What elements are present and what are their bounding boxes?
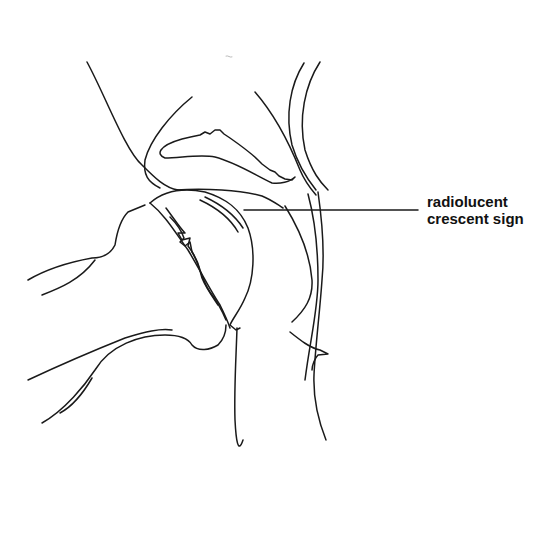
neck-lower-line — [42, 260, 95, 295]
acetabular-roof-edge — [176, 189, 283, 208]
ischium-line-1 — [285, 206, 312, 322]
pelvic-curve-2 — [302, 62, 328, 190]
hip-joint-diagram: radiolucent crescent sign — [0, 0, 549, 536]
small-mark — [226, 56, 232, 57]
femoral-shaft-line — [235, 328, 243, 446]
crescent-line-2 — [205, 197, 243, 228]
femoral-head-edge — [150, 203, 230, 328]
hip-drawing — [0, 0, 549, 536]
femoral-calcar — [42, 325, 226, 423]
annotation-label-line1: radiolucent — [427, 193, 524, 210]
ischium-line-3 — [314, 192, 326, 440]
femoral-head — [150, 190, 253, 330]
acetabular-roof-band — [160, 130, 295, 183]
annotation-label-line2: crescent sign — [427, 210, 524, 227]
medial-femur-curve — [28, 329, 172, 380]
annotation-label: radiolucent crescent sign — [427, 193, 524, 227]
